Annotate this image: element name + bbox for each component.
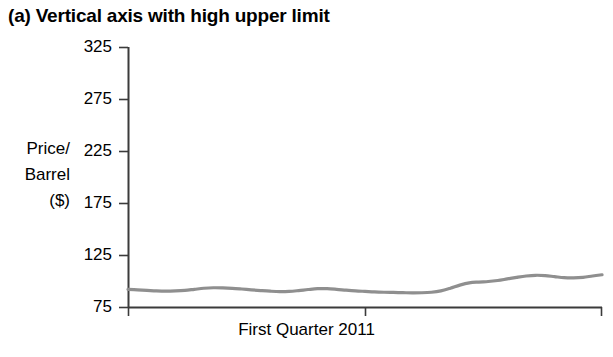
chart-figure: (a) Vertical axis with high upper limit … bbox=[0, 0, 613, 357]
data-series-line bbox=[128, 275, 602, 293]
plot-area bbox=[0, 0, 613, 357]
x-axis-group bbox=[128, 307, 602, 316]
x-axis-label: First Quarter 2011 bbox=[0, 320, 613, 340]
y-axis-group bbox=[119, 47, 129, 308]
